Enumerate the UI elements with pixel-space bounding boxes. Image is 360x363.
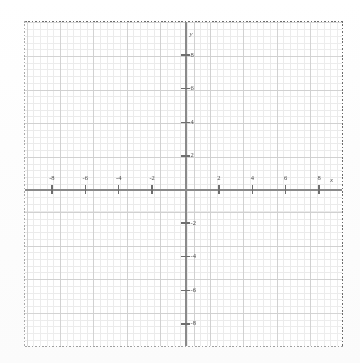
y-tick-label--4: -4 [191, 253, 196, 260]
y-tick-label-6: 6 [191, 85, 194, 92]
y-tick-label--2: -2 [191, 220, 196, 227]
x-tick--8 [51, 185, 52, 194]
y-tick-label--6: -6 [191, 287, 196, 294]
x-tick-label-8: 8 [317, 175, 320, 182]
y-tick-2 [181, 155, 190, 156]
y-tick-6 [181, 88, 190, 89]
y-tick-label-4: 4 [191, 119, 194, 126]
x-tick-label--6: -6 [83, 175, 88, 182]
x-axis-line [25, 189, 342, 191]
x-tick-4 [252, 185, 253, 194]
y-tick--2 [181, 222, 190, 223]
x-tick-2 [218, 185, 219, 194]
major-gridlines [25, 22, 342, 346]
x-tick-6 [285, 185, 286, 194]
y-tick--6 [181, 290, 190, 291]
y-tick-8 [181, 54, 190, 55]
x-tick-label--4: -4 [116, 175, 121, 182]
y-tick--8 [181, 323, 190, 324]
y-tick--4 [181, 256, 190, 257]
y-tick-4 [181, 122, 190, 123]
x-tick-label--8: -8 [49, 175, 54, 182]
x-axis-label: x [330, 176, 333, 184]
y-tick-label--8: -8 [191, 320, 196, 327]
x-tick--4 [118, 185, 119, 194]
x-tick-label--2: -2 [149, 175, 154, 182]
y-axis-line [185, 22, 187, 346]
plot-area: -8-6-4-224688642-2-4-6-8yx [25, 22, 342, 346]
x-tick-label-6: 6 [284, 175, 287, 182]
y-axis-label: y [190, 30, 193, 38]
coordinate-grid-figure: -8-6-4-224688642-2-4-6-8yx [0, 0, 360, 363]
x-tick-label-4: 4 [251, 175, 254, 182]
x-tick-8 [318, 185, 319, 194]
x-tick--6 [85, 185, 86, 194]
y-tick-label-2: 2 [191, 152, 194, 159]
y-tick-label-8: 8 [191, 52, 194, 59]
x-tick--2 [151, 185, 152, 194]
x-tick-label-2: 2 [217, 175, 220, 182]
